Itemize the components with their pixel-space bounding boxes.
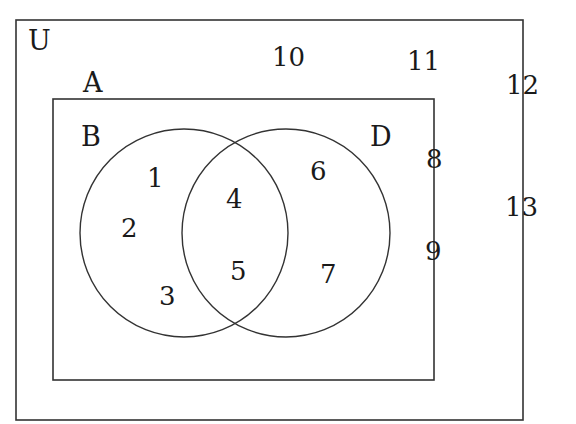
element-8: 8	[426, 144, 443, 174]
element-5: 5	[230, 256, 247, 286]
element-11: 11	[407, 46, 440, 76]
element-9: 9	[425, 236, 442, 266]
element-10: 10	[272, 42, 305, 72]
element-12: 12	[506, 70, 539, 100]
element-3: 3	[159, 281, 176, 311]
element-2: 2	[121, 213, 138, 243]
element-1: 1	[147, 163, 164, 193]
element-13: 13	[505, 192, 538, 222]
element-6: 6	[310, 156, 327, 186]
label-b: B	[81, 121, 101, 152]
set-b-circle	[80, 129, 288, 337]
element-7: 7	[320, 259, 337, 289]
set-d-circle	[182, 129, 390, 337]
element-4: 4	[226, 184, 243, 214]
venn-diagram: U A B D 1 2 3 4 5 6 7 8 9 10 11 12 13	[0, 0, 576, 424]
label-a: A	[82, 67, 103, 98]
label-u: U	[28, 25, 51, 56]
label-d: D	[370, 121, 392, 152]
